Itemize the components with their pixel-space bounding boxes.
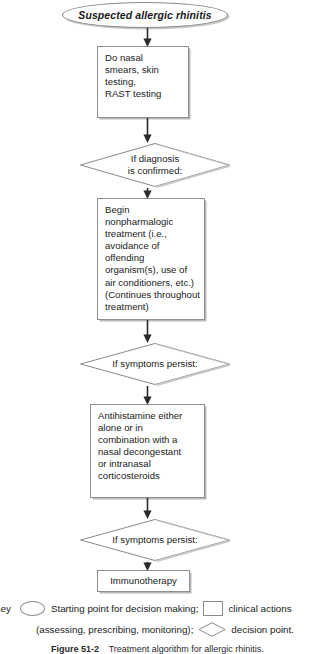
legend-rectangle-icon [203,601,223,616]
legend-diamond-description: decision point. [231,624,294,635]
node-begin-nonpharmalogic-treatment-label: Begin nonpharmalogic treatment (i.e., av… [105,204,200,313]
decision-if-symptoms-persist-first: If symptoms persist: [79,342,231,386]
start-node-label: Suspected allergic rhinitis [63,9,227,21]
flowchart-canvas: Suspected allergic rhinitis Do nasal sme… [0,0,315,654]
legend-diamond-icon [198,622,226,637]
decision-if-diagnosis-confirmed-label: If diagnosis is confirmed: [79,153,231,177]
node-begin-nonpharmalogic-treatment: Begin nonpharmalogic treatment (i.e., av… [97,198,205,320]
decision-if-diagnosis-confirmed: If diagnosis is confirmed: [79,142,231,188]
start-node-ellipse: Suspected allergic rhinitis [62,2,228,28]
legend-row-secondary: (assessing, prescribing, monitoring); de… [0,619,315,639]
legend-ellipse-description: Starting point for decision making; [51,603,199,614]
figure-caption-number: Figure 51-2 [51,644,99,654]
node-immunotherapy-label: Immunotherapy [98,575,189,587]
connector-arrow-diagnostics-to-confirmed [142,118,153,143]
node-antihistamine-therapy: Antihistamine either alone or in combina… [90,404,205,498]
connector-arrow-antihistamine-to-persist-2 [142,498,153,519]
node-do-nasal-smears: Do nasal smears, skin testing, RAST test… [97,46,189,118]
decision-if-symptoms-persist-second-label: If symptoms persist: [79,534,231,546]
connector-arrow-nonpharmacologic-to-persist-1 [142,320,153,343]
decision-if-symptoms-persist-second: If symptoms persist: [79,518,231,562]
legend-ellipse-icon [20,601,45,616]
connector-arrow-start-to-diagnostics [142,28,153,47]
legend-key-label: Key [0,603,11,614]
figure-caption-text: Treatment algorithm for allergic rhiniti… [109,644,264,654]
legend-continuation-description: (assessing, prescribing, monitoring); [36,624,193,635]
node-do-nasal-smears-label: Do nasal smears, skin testing, RAST test… [105,52,184,100]
node-immunotherapy: Immunotherapy [97,570,190,592]
figure-caption: Figure 51-2 Treatment algorithm for alle… [0,644,315,654]
legend-rectangle-description: clinical actions [228,603,291,614]
legend-row-primary: Key Starting point for decision making; … [0,598,315,618]
connector-arrow-persist-1-to-antihistamine [142,386,153,405]
decision-if-symptoms-persist-first-label: If symptoms persist: [79,358,231,370]
node-antihistamine-therapy-label: Antihistamine either alone or in combina… [98,410,200,483]
